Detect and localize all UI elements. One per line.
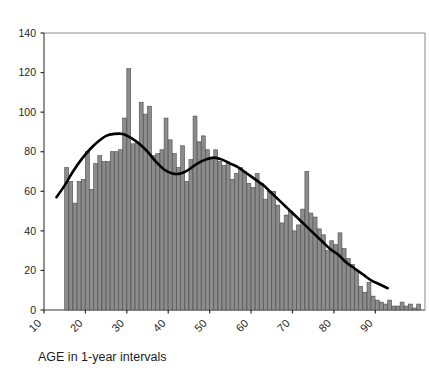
histogram-bar <box>408 304 412 310</box>
x-tick-label: 90 <box>358 317 375 334</box>
histogram-bar <box>396 306 400 310</box>
histogram-bar <box>309 213 313 310</box>
histogram-bar <box>392 306 396 310</box>
histogram-bar <box>218 162 222 310</box>
histogram-bar <box>139 102 143 310</box>
x-tick-label: 80 <box>316 317 333 334</box>
histogram-bar <box>152 156 156 310</box>
histogram-bar <box>110 152 114 310</box>
histogram-bar <box>417 304 421 310</box>
histogram-bar <box>77 181 81 310</box>
x-axis: 102030405060708090 <box>26 310 375 334</box>
histogram-bar <box>206 150 210 310</box>
histogram-bar <box>114 152 118 310</box>
histogram-bar <box>156 154 160 310</box>
x-tick-label: 70 <box>275 317 292 334</box>
histogram-bar <box>65 168 69 310</box>
y-tick-label: 140 <box>18 27 36 39</box>
histogram-bar <box>214 150 218 310</box>
histogram-bar <box>375 300 379 310</box>
histogram-bar <box>90 189 94 310</box>
histogram-bar <box>284 215 288 310</box>
x-tick-label: 30 <box>109 317 126 334</box>
histogram-bar <box>127 69 131 310</box>
histogram-bar <box>185 181 189 310</box>
histogram-bar <box>143 114 147 310</box>
chart-canvas: 020406080100120140102030405060708090AGE … <box>0 0 429 379</box>
histogram-bar <box>321 235 325 310</box>
y-axis: 020406080100120140 <box>18 27 44 316</box>
histogram-bars <box>65 69 421 310</box>
histogram-bar <box>268 191 272 310</box>
x-tick-label: 60 <box>233 317 250 334</box>
histogram-bar <box>255 173 259 310</box>
histogram-bar <box>189 160 193 310</box>
histogram-bar <box>363 292 367 310</box>
histogram-bar <box>371 296 375 310</box>
histogram-bar <box>276 205 280 310</box>
histogram-bar <box>263 199 267 310</box>
y-tick-label: 100 <box>18 106 36 118</box>
histogram-bar <box>164 118 168 310</box>
histogram-bar <box>135 142 139 310</box>
histogram-bar <box>177 168 181 310</box>
x-tick-label: 50 <box>192 317 209 334</box>
histogram-bar <box>106 162 110 310</box>
histogram-bar <box>359 286 363 310</box>
histogram-bar <box>297 225 301 310</box>
y-tick-label: 40 <box>24 225 36 237</box>
histogram-bar <box>272 191 276 310</box>
histogram-bar <box>379 302 383 310</box>
histogram-bar <box>94 164 98 310</box>
histogram-bar <box>338 233 342 310</box>
histogram-bar <box>259 183 263 310</box>
histogram-bar <box>367 282 371 310</box>
histogram-bar <box>210 160 214 310</box>
x-tick-label: 10 <box>26 317 43 334</box>
histogram-bar <box>292 231 296 310</box>
histogram-bar <box>280 223 284 310</box>
x-tick-label: 40 <box>151 317 168 334</box>
x-tick-label: 20 <box>68 317 85 334</box>
histogram-bar <box>131 144 135 310</box>
histogram-bar <box>413 308 417 310</box>
histogram-bar <box>172 154 176 310</box>
histogram-bar <box>69 181 73 310</box>
y-tick-label: 60 <box>24 185 36 197</box>
histogram-bar <box>102 162 106 310</box>
histogram-bar <box>288 211 292 310</box>
histogram-bar <box>400 302 404 310</box>
histogram-bar <box>305 172 309 311</box>
histogram-chart: 020406080100120140102030405060708090AGE … <box>0 0 429 379</box>
histogram-bar <box>230 179 234 310</box>
histogram-bar <box>81 179 85 310</box>
histogram-bar <box>98 156 102 310</box>
histogram-bar <box>251 187 255 310</box>
histogram-bar <box>384 304 388 310</box>
histogram-bar <box>326 251 330 310</box>
histogram-bar <box>355 270 359 310</box>
histogram-bar <box>168 140 172 310</box>
y-tick-label: 20 <box>24 264 36 276</box>
histogram-bar <box>388 300 392 310</box>
histogram-bar <box>404 306 408 310</box>
histogram-bar <box>119 150 123 310</box>
histogram-bar <box>313 217 317 310</box>
y-tick-label: 120 <box>18 66 36 78</box>
y-tick-label: 80 <box>24 145 36 157</box>
histogram-bar <box>160 150 164 310</box>
y-tick-label: 0 <box>30 304 36 316</box>
histogram-bar <box>235 173 239 310</box>
histogram-bar <box>85 152 89 310</box>
histogram-bar <box>222 166 226 310</box>
histogram-bar <box>243 172 247 311</box>
histogram-bar <box>197 142 201 310</box>
histogram-bar <box>148 106 152 310</box>
histogram-bar <box>73 203 77 310</box>
histogram-bar <box>181 146 185 310</box>
histogram-bar <box>239 168 243 310</box>
x-axis-title: AGE in 1-year intervals <box>38 350 167 364</box>
histogram-bar <box>193 116 197 310</box>
histogram-bar <box>350 264 354 310</box>
histogram-bar <box>226 164 230 310</box>
